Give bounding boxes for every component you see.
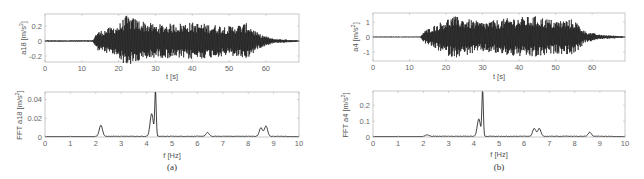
x-tick-label: 4 [472, 139, 476, 148]
y-axis-label: a4 [m/s2] [350, 22, 360, 51]
x-tick-label: 0 [43, 139, 47, 148]
x-tick-label: 30 [151, 64, 159, 73]
y-tick-label: 0.02 [27, 114, 42, 123]
x-tick-label: 6 [195, 139, 199, 148]
x-tick-label: 8 [246, 139, 250, 148]
x-tick-label: 7 [547, 139, 551, 148]
panel-a-fft-plot: 01234567891000.020.04 f [Hz] FFT a18 [m/… [14, 90, 303, 172]
y-axis-label: FFT a4 [m/s2] [340, 92, 350, 137]
x-tick-label: 20 [442, 63, 450, 72]
panel-caption-b: (b) [494, 162, 505, 172]
x-axis-label: t [s] [493, 72, 505, 81]
y-tick-label: 0 [38, 37, 42, 46]
y-axis-label: a18 [m/s2] [18, 21, 28, 55]
y-tick-label: 0 [366, 133, 370, 142]
x-axis-label: f [Hz] [163, 151, 181, 160]
x-axis-label: f [Hz] [490, 150, 508, 159]
x-tick-label: 3 [119, 139, 123, 148]
y-tick-label: 0 [366, 33, 370, 42]
x-tick-label: 10 [295, 139, 303, 148]
x-tick-label: 5 [497, 139, 501, 148]
x-tick-label: 30 [478, 63, 486, 72]
x-tick-label: 4 [145, 139, 149, 148]
x-tick-label: 40 [188, 64, 196, 73]
x-tick-label: 8 [573, 139, 577, 148]
x-tick-label: 0 [371, 139, 375, 148]
x-tick-label: 2 [421, 139, 425, 148]
y-tick-label: 1 [366, 18, 370, 27]
panel-b-fft-plot: 01234567891000.10.2 f [Hz] FFT a4 [m/s2]… [340, 91, 629, 172]
x-tick-label: 10 [621, 139, 629, 148]
panel-a-time-plot: 0102030405060-0.200.2 t [s] a18 [m/s2] [18, 14, 299, 81]
figure: 0102030405060-0.200.2 t [s] a18 [m/s2] 0… [0, 0, 644, 179]
axes-box [373, 91, 625, 137]
x-tick-label: 50 [551, 63, 559, 72]
y-tick-label: 0.2 [360, 101, 370, 110]
panel-caption-a: (a) [167, 162, 177, 172]
x-tick-label: 1 [396, 139, 400, 148]
x-tick-label: 20 [114, 64, 122, 73]
x-tick-label: 60 [262, 64, 270, 73]
x-tick-label: 9 [272, 139, 276, 148]
x-tick-label: 2 [94, 139, 98, 148]
y-tick-label: 0.04 [27, 95, 42, 104]
panel-b-time-plot: 0102030405060-101 t [s] a4 [m/s2] [350, 13, 625, 81]
y-tick-label: 0 [38, 133, 42, 142]
x-axis-label: t [s] [166, 72, 178, 81]
x-tick-label: 60 [588, 63, 596, 72]
x-tick-label: 3 [447, 139, 451, 148]
x-tick-label: 50 [225, 64, 233, 73]
x-tick-label: 6 [522, 139, 526, 148]
x-tick-label: 40 [515, 63, 523, 72]
y-tick-label: 0.1 [360, 117, 370, 126]
y-axis-label: FFT a18 [m/s2] [14, 90, 24, 139]
y-tick-label: -1 [363, 48, 370, 57]
x-tick-label: 7 [221, 139, 225, 148]
x-tick-label: 0 [43, 64, 47, 73]
x-tick-label: 0 [371, 63, 375, 72]
x-tick-label: 5 [170, 139, 174, 148]
x-tick-label: 1 [68, 139, 72, 148]
axes-box [45, 92, 299, 137]
y-tick-label: 0.2 [32, 22, 42, 31]
x-tick-label: 10 [78, 64, 86, 73]
y-tick-label: -0.2 [29, 52, 42, 61]
x-tick-label: 9 [598, 139, 602, 148]
x-tick-label: 10 [405, 63, 413, 72]
